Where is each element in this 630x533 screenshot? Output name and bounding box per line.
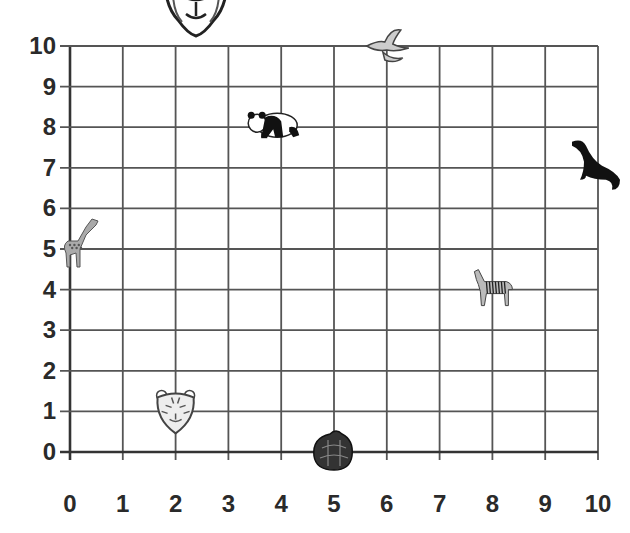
y-tick-label: 7 <box>16 156 56 180</box>
y-tick-label: 5 <box>16 237 56 261</box>
y-tick-label: 9 <box>16 75 56 99</box>
turtle-icon <box>314 431 352 470</box>
y-tick-label: 0 <box>16 440 56 464</box>
grid-plot <box>0 0 630 533</box>
grid-lines <box>60 46 598 460</box>
coordinate-grid-figure: 012345678910 012345678910 <box>0 0 630 533</box>
y-tick-label: 6 <box>16 196 56 220</box>
y-tick-label: 8 <box>16 115 56 139</box>
y-tick-label: 4 <box>16 278 56 302</box>
lion-icon <box>165 0 227 36</box>
y-tick-label: 1 <box>16 399 56 423</box>
seal-icon <box>572 140 620 189</box>
y-tick-label: 3 <box>16 318 56 342</box>
zebra-icon <box>474 270 512 306</box>
tiger-icon <box>157 390 195 433</box>
x-tick-label: 1 <box>103 492 143 516</box>
animal-markers <box>64 0 620 470</box>
x-tick-label: 2 <box>156 492 196 516</box>
x-tick-label: 7 <box>420 492 460 516</box>
x-tick-label: 3 <box>208 492 248 516</box>
x-tick-label: 5 <box>314 492 354 516</box>
y-tick-label: 10 <box>16 34 56 58</box>
panda-icon <box>248 112 300 139</box>
x-tick-label: 0 <box>50 492 90 516</box>
x-tick-label: 10 <box>578 492 618 516</box>
x-tick-label: 6 <box>367 492 407 516</box>
x-tick-label: 8 <box>472 492 512 516</box>
y-tick-label: 2 <box>16 359 56 383</box>
x-tick-label: 9 <box>525 492 565 516</box>
x-tick-label: 4 <box>261 492 301 516</box>
